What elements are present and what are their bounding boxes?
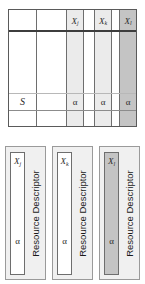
descriptor-column-j-header: Xj [11, 157, 24, 166]
grid-hline-row-s-bottom [9, 110, 136, 111]
column-header-xl: Xl [120, 12, 136, 30]
resource-descriptor-j: Xj α Resource Descriptor [5, 146, 46, 280]
descriptor-label-k-wrap: Resource Descriptor [72, 147, 92, 279]
grid-vline-1 [36, 10, 37, 126]
descriptor-column-j-sub: j [19, 161, 21, 167]
grid-vline-3 [83, 10, 84, 126]
descriptor-column-l: Xl α [104, 152, 119, 275]
descriptor-column-k: Xk α [57, 152, 72, 275]
descriptor-column-l-sub: l [113, 161, 115, 167]
cell-s-xj: α [67, 94, 83, 110]
diagram-canvas: Xj Xk Xl S α α α Xj α Resource Descripto… [0, 0, 145, 284]
resource-descriptor-group: Xj α Resource Descriptor Xk α Resource D… [0, 146, 145, 282]
header-separator [9, 30, 136, 32]
matrix-table: Xj Xk Xl S α α α [8, 9, 137, 127]
column-header-xj: Xj [67, 12, 83, 30]
descriptor-column-l-header: Xl [105, 157, 118, 166]
descriptor-column-k-header: Xk [58, 157, 71, 166]
column-header-xk-sub: k [104, 20, 107, 26]
descriptor-label-j: Resource Descriptor [30, 170, 41, 257]
grid-vline-5 [111, 10, 112, 126]
descriptor-label-j-wrap: Resource Descriptor [25, 147, 45, 279]
descriptor-column-j: Xj α [10, 152, 25, 275]
descriptor-label-k: Resource Descriptor [77, 170, 88, 257]
resource-descriptor-l: Xl α Resource Descriptor [99, 146, 140, 280]
descriptor-column-k-sub: k [66, 161, 69, 167]
descriptor-column-j-alpha: α [11, 237, 24, 246]
column-header-xl-sub: l [130, 20, 132, 26]
resource-descriptor-k: Xk α Resource Descriptor [52, 146, 93, 280]
cell-s-xl: α [120, 94, 136, 110]
cell-s-xk: α [95, 94, 111, 110]
descriptor-label-l-wrap: Resource Descriptor [119, 147, 139, 279]
descriptor-column-l-alpha: α [105, 237, 118, 246]
descriptor-label-l: Resource Descriptor [124, 170, 135, 257]
column-header-xk: Xk [95, 12, 111, 30]
row-label-s: S [9, 94, 36, 110]
column-header-xj-sub: j [77, 20, 79, 26]
descriptor-column-k-alpha: α [58, 237, 71, 246]
